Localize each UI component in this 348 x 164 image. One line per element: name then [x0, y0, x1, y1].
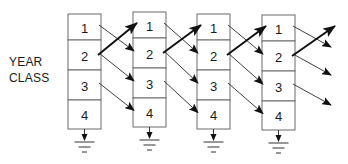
age-class-box: 2 — [68, 40, 101, 70]
age-class-box: 3 — [262, 71, 295, 101]
age-class-box: 4 — [197, 100, 230, 129]
aging-arrow — [228, 53, 263, 84]
age-class-number: 2 — [81, 49, 88, 64]
age-class-number: 3 — [146, 77, 153, 92]
ground-icon — [75, 129, 95, 152]
age-class-number: 2 — [275, 50, 282, 65]
age-class-box: 2 — [262, 41, 295, 71]
ground-icon — [204, 129, 224, 152]
age-class-number: 1 — [81, 21, 88, 36]
age-class-box: 3 — [68, 70, 101, 100]
recruitment-arrow — [163, 25, 201, 53]
age-class-number: 1 — [275, 22, 282, 37]
age-class-box: 4 — [262, 101, 295, 130]
age-class-box: 4 — [133, 98, 166, 127]
ground-icon — [269, 130, 289, 153]
age-class-box: 3 — [197, 70, 230, 100]
age-class-box: 1 — [68, 14, 101, 40]
aging-arrow — [228, 83, 263, 114]
age-class-number: 2 — [146, 47, 153, 62]
age-class-number: 2 — [210, 49, 217, 64]
age-class-box: 2 — [133, 38, 166, 68]
age-class-number: 4 — [210, 108, 217, 123]
year-class-transition-diagram: 1234123412341234 — [0, 0, 348, 164]
age-class-box: 2 — [197, 40, 230, 70]
ground-icon — [140, 127, 160, 150]
recruitment-arrow — [98, 23, 137, 55]
recruitment-arrow — [292, 26, 335, 56]
aging-arrow — [293, 54, 331, 75]
year-column-1: 1234 — [68, 14, 101, 152]
year-column-4: 1234 — [262, 15, 295, 153]
age-class-number: 1 — [210, 21, 217, 36]
year-column-3: 1234 — [197, 14, 230, 152]
aging-arrow — [293, 84, 331, 105]
age-class-box: 3 — [133, 68, 166, 98]
age-class-number: 3 — [81, 79, 88, 94]
recruitment-arrow — [227, 26, 266, 55]
aging-arrow — [164, 81, 198, 113]
age-class-box: 1 — [197, 14, 230, 40]
age-class-box: 1 — [262, 15, 295, 41]
aging-arrow — [293, 26, 331, 47]
age-class-box: 4 — [68, 100, 101, 129]
age-class-number: 1 — [146, 19, 153, 34]
age-class-number: 4 — [81, 108, 88, 123]
age-class-box: 1 — [133, 12, 166, 38]
aging-arrow — [99, 53, 134, 81]
aging-arrow — [99, 83, 134, 111]
aging-arrow — [164, 51, 198, 83]
age-class-number: 3 — [210, 79, 217, 94]
age-class-number: 4 — [146, 106, 153, 121]
year-column-2: 1234 — [133, 12, 166, 150]
age-class-number: 3 — [275, 80, 282, 95]
age-class-number: 4 — [275, 109, 282, 124]
